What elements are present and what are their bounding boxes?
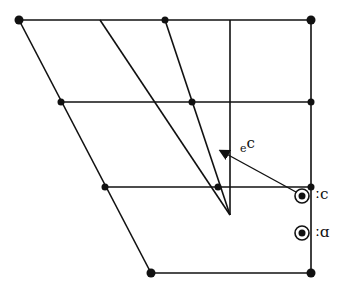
front-edge [19, 20, 151, 273]
vowel-marker-open-o [295, 189, 309, 203]
vowel-chart [0, 0, 346, 294]
central-line-a [100, 20, 230, 215]
vowel-label-1: ɔː [315, 188, 328, 203]
diphthong-label: ɔə [240, 137, 255, 155]
diphthong-offglide: ə [240, 143, 247, 156]
diphthong-arrow [221, 151, 296, 192]
vowel-marker-open-back-rounded [295, 226, 309, 240]
diphthong-base: ɔ [247, 136, 255, 154]
grid-points [15, 16, 316, 278]
chart-lines [19, 20, 311, 273]
vowel-label-2: ɒː [315, 226, 330, 241]
